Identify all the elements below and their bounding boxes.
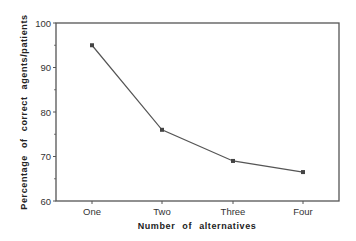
- x-tick-label: Two: [153, 206, 170, 217]
- y-tick-label: 70: [40, 151, 51, 162]
- x-axis-ticks: OneTwoThreeFour: [83, 201, 313, 217]
- y-tick-label: 60: [40, 196, 51, 207]
- data-series: [90, 43, 305, 174]
- line-chart: 60708090100 OneTwoThreeFour Number of al…: [0, 0, 356, 241]
- square-marker-icon: [90, 43, 94, 47]
- plot-frame: [56, 23, 339, 201]
- x-tick-label: One: [83, 206, 101, 217]
- y-axis-title: Percentage of correct agents/patients: [19, 14, 29, 209]
- x-axis-title: Number of alternatives: [138, 221, 257, 231]
- x-tick-label: Three: [221, 206, 246, 217]
- x-tick-label: Four: [293, 206, 313, 217]
- y-tick-label: 100: [35, 18, 51, 29]
- square-marker-icon: [301, 170, 305, 174]
- y-axis-ticks: 60708090100: [35, 18, 56, 207]
- square-marker-icon: [160, 128, 164, 132]
- y-tick-label: 80: [40, 107, 51, 118]
- y-tick-label: 90: [40, 62, 51, 73]
- square-marker-icon: [231, 159, 235, 163]
- plot-border: [56, 23, 339, 201]
- series-line: [92, 45, 303, 172]
